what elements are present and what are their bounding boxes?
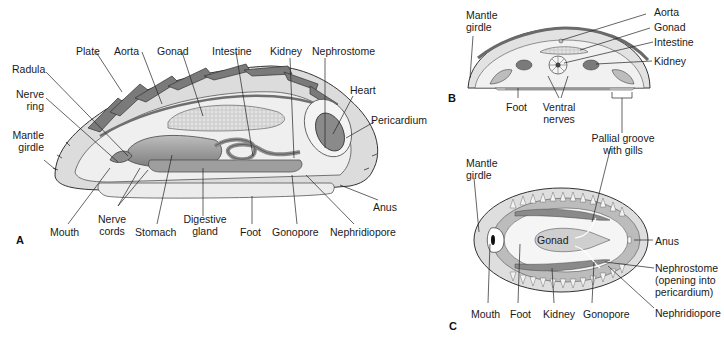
label-mantle-girdle-b-line2: girdle [466,21,498,33]
label-aorta: Aorta [114,45,139,57]
label-kidney-c: Kidney [543,308,575,320]
panel-label-a: A [16,234,24,246]
label-gonopore-a: Gonopore [272,226,319,238]
label-mouth-c: Mouth [471,308,500,320]
label-nerve-ring: Nerve ring [16,88,44,112]
label-mantle-girdle-c-line1: Mantle [466,157,498,169]
digestive-gland-a [148,160,301,172]
label-gonopore-c: Gonopore [583,308,630,320]
label-gonad-c: Gonad [537,234,569,246]
label-nephrostome-c-line2: (opening into [655,274,718,286]
label-mantle-girdle-a-line2: girdle [8,141,44,153]
label-digestive-gland-line1: Digestive [183,213,227,225]
label-nephridiopore-a: Nephridiopore [330,226,396,238]
label-foot-b: Foot [506,101,527,113]
chiton-body-a [53,64,378,198]
label-nephrostome-c-line1: Nephrostome [655,262,718,274]
label-intestine-b: Intestine [654,36,694,48]
label-ventral-nerves-line2: nerves [538,113,580,125]
label-kidney: Kidney [270,45,302,57]
label-ventral-nerves: Ventral nerves [538,101,580,125]
label-mantle-girdle-b-line1: Mantle [466,9,498,21]
label-radula: Radula [12,63,45,75]
label-plate: Plate [76,45,100,57]
label-pericardium: Pericardium [371,114,427,126]
label-nephrostome-c: Nephrostome (opening into pericardium) [655,262,718,298]
label-pallial-groove-line2: with gills [590,144,656,156]
label-digestive-gland: Digestive gland [183,213,227,237]
label-mantle-girdle-b: Mantle girdle [466,9,498,33]
label-aorta-b: Aorta [654,6,679,18]
diagram-c-ventral-view [474,146,654,308]
label-nephridiopore-c: Nephridiopore [655,307,721,319]
label-anus-c: Anus [655,235,679,247]
label-pallial-groove: Pallial groove with gills [590,132,656,156]
label-ventral-nerves-line1: Ventral [538,101,580,113]
label-nerve-cords-line2: cords [95,225,129,237]
label-foot-c: Foot [510,308,531,320]
panel-label-c: C [449,320,457,332]
label-nephrostome-c-line3: pericardium) [655,286,718,298]
label-gonad-b: Gonad [654,21,686,33]
label-nerve-cords-line1: Nerve [95,213,129,225]
label-anus-a: Anus [373,201,397,213]
label-nerve-cords: Nerve cords [95,213,129,237]
label-nerve-ring-line2: ring [16,100,44,112]
label-kidney-b: Kidney [654,55,686,67]
label-mantle-girdle-a: Mantle girdle [8,129,44,153]
label-mantle-girdle-a-line1: Mantle [8,129,44,141]
label-mantle-girdle-c-line2: girdle [466,169,498,181]
label-nephrostome: Nephrostome [312,45,375,57]
label-nerve-ring-line1: Nerve [16,88,44,100]
label-foot-a: Foot [240,226,261,238]
label-gonad: Gonad [157,45,189,57]
label-heart: Heart [350,84,376,96]
foot-a [98,183,334,198]
label-stomach: Stomach [135,226,176,238]
panel-label-b: B [448,92,456,104]
label-mantle-girdle-c: Mantle girdle [466,157,498,181]
label-pallial-groove-line1: Pallial groove [590,132,656,144]
label-digestive-gland-line2: gland [183,225,227,237]
label-intestine: Intestine [212,45,252,57]
label-mouth-a: Mouth [50,226,79,238]
